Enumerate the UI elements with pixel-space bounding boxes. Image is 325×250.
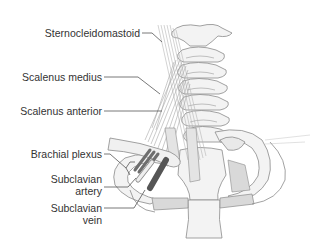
label-sternocleidomastoid: Sternocleidomastoid xyxy=(44,27,140,39)
sternum xyxy=(178,148,226,239)
label-subclavian-vein-line2: vein xyxy=(30,214,102,226)
cervical-spine xyxy=(172,24,232,142)
label-subclavian-vein-line1: Subclavian xyxy=(30,202,102,214)
background-lines xyxy=(265,135,310,144)
label-subclavian-artery-line2: artery xyxy=(30,185,102,197)
label-subclavian-artery-line1: Subclavian xyxy=(30,173,102,185)
label-subclavian-vein: Subclavian vein xyxy=(30,202,102,226)
label-subclavian-artery: Subclavian artery xyxy=(30,173,102,197)
label-scalenus-anterior: Scalenus anterior xyxy=(8,105,102,117)
label-brachial-plexus: Brachial plexus xyxy=(20,148,102,160)
label-scalenus-medius: Scalenus medius xyxy=(10,71,102,83)
